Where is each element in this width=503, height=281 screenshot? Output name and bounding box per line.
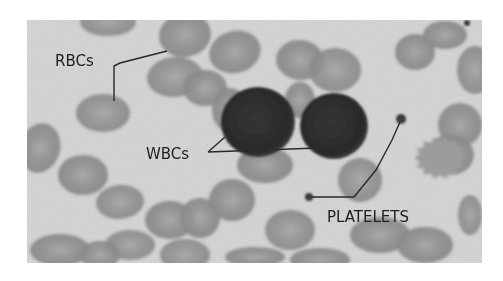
blood-smear-figure: RBCs WBCs PLATELETS xyxy=(0,0,503,281)
rbc-label: RBCs xyxy=(55,52,94,70)
wbc-label: WBCs xyxy=(146,145,189,163)
platelets-label: PLATELETS xyxy=(327,208,409,226)
micrograph: RBCs WBCs PLATELETS xyxy=(0,0,503,281)
cells-layer xyxy=(14,8,493,272)
